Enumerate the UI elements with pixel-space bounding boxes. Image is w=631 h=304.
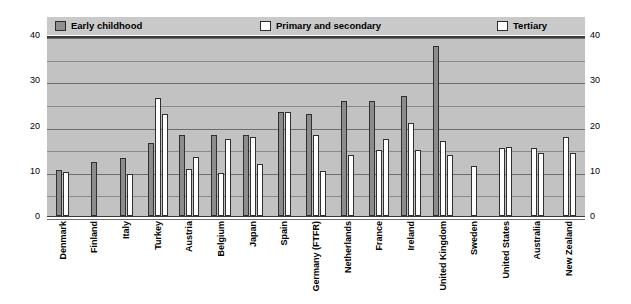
bar-primary[interactable] xyxy=(313,135,319,216)
bar-early[interactable] xyxy=(56,170,62,216)
bar-early[interactable] xyxy=(369,101,375,216)
bar-tertiary[interactable] xyxy=(506,147,512,216)
bar-tertiary[interactable] xyxy=(570,153,576,216)
bar-tertiary[interactable] xyxy=(225,139,231,216)
bar-tertiary[interactable] xyxy=(193,157,199,216)
bar-group xyxy=(174,38,206,216)
x-label-cell: Italy xyxy=(110,219,142,304)
bar-primary[interactable] xyxy=(348,155,354,216)
bar-primary[interactable] xyxy=(218,173,224,216)
bar-early[interactable] xyxy=(341,101,347,216)
bar-primary[interactable] xyxy=(155,98,161,216)
bar-primary[interactable] xyxy=(563,137,569,216)
bar-early[interactable] xyxy=(243,135,249,216)
x-tick-label: Denmark xyxy=(58,221,68,260)
x-label-cell: Finland xyxy=(79,219,111,304)
bar-tertiary[interactable] xyxy=(415,150,421,216)
bar-primary[interactable] xyxy=(408,123,414,216)
bar-group xyxy=(47,38,79,216)
legend-swatch-icon xyxy=(260,21,271,31)
bar-early[interactable] xyxy=(148,143,154,216)
bar-group xyxy=(553,38,585,216)
bar-tertiary[interactable] xyxy=(257,164,263,216)
bar-group xyxy=(142,38,174,216)
legend-item-early[interactable]: Early childhood xyxy=(55,17,142,35)
bar-early[interactable] xyxy=(278,112,284,216)
x-tick-label: Italy xyxy=(121,221,131,239)
x-label-cell: France xyxy=(363,219,395,304)
x-tick-label: Belgium xyxy=(216,221,226,257)
x-tick-label: Spain xyxy=(279,221,289,246)
bar-primary[interactable] xyxy=(285,112,291,216)
x-tick-label: Austria xyxy=(184,221,194,252)
x-label-cell: United States xyxy=(490,219,522,304)
bar-primary[interactable] xyxy=(471,166,477,216)
bar-tertiary[interactable] xyxy=(162,114,168,216)
bar-group xyxy=(110,38,142,216)
x-tick-label: Germany (FTFR) xyxy=(311,221,321,292)
bar-group xyxy=(79,38,111,216)
y-tick-label: 20 xyxy=(590,121,612,131)
legend-label: Early childhood xyxy=(71,21,142,31)
x-label-cell: Japan xyxy=(237,219,269,304)
y-tick-label: 20 xyxy=(18,121,40,131)
bar-groups xyxy=(47,38,585,216)
bar-early[interactable] xyxy=(179,135,185,216)
x-axis-labels: DenmarkFinlandItalyTurkeyAustriaBelgiumJ… xyxy=(47,219,585,304)
x-tick-label: Sweden xyxy=(469,221,479,255)
x-tick-label: Netherlands xyxy=(343,221,353,273)
y-tick-label: 30 xyxy=(590,75,612,85)
bar-tertiary[interactable] xyxy=(320,171,326,216)
x-tick-label: Ireland xyxy=(406,221,416,251)
bar-early[interactable] xyxy=(433,46,439,216)
x-tick-label: United States xyxy=(501,221,511,279)
bar-group xyxy=(427,38,459,216)
legend-item-primary[interactable]: Primary and secondary xyxy=(260,17,381,35)
legend-swatch-icon xyxy=(497,21,508,31)
x-tick-label: Australia xyxy=(532,221,542,260)
bar-tertiary[interactable] xyxy=(538,153,544,216)
x-label-cell: United Kingdom xyxy=(427,219,459,304)
bar-group xyxy=(332,38,364,216)
x-tick-label: United Kingdom xyxy=(438,221,448,291)
chart-container: Early childhoodPrimary and secondaryTert… xyxy=(0,0,631,304)
bar-group xyxy=(205,38,237,216)
bar-tertiary[interactable] xyxy=(383,139,389,216)
bar-primary[interactable] xyxy=(127,174,133,216)
bar-group xyxy=(300,38,332,216)
bar-primary[interactable] xyxy=(186,169,192,217)
bar-early[interactable] xyxy=(120,158,126,216)
x-label-cell: New Zealand xyxy=(553,219,585,304)
bar-early[interactable] xyxy=(401,96,407,216)
bar-early[interactable] xyxy=(211,135,217,216)
bar-primary[interactable] xyxy=(440,141,446,216)
x-label-cell: Denmark xyxy=(47,219,79,304)
x-tick-label: Finland xyxy=(89,221,99,253)
y-tick-label: 40 xyxy=(18,30,40,40)
chart-legend: Early childhoodPrimary and secondaryTert… xyxy=(47,17,585,35)
bar-primary[interactable] xyxy=(250,137,256,216)
bar-group xyxy=(522,38,554,216)
y-tick-label: 30 xyxy=(18,75,40,85)
x-label-cell: Spain xyxy=(268,219,300,304)
y-tick-label: 0 xyxy=(590,211,612,221)
bar-primary[interactable] xyxy=(63,172,69,216)
legend-label: Primary and secondary xyxy=(276,21,381,31)
x-label-cell: Turkey xyxy=(142,219,174,304)
bar-group xyxy=(395,38,427,216)
x-label-cell: Austria xyxy=(174,219,206,304)
bar-primary[interactable] xyxy=(531,148,537,216)
x-tick-label: France xyxy=(374,221,384,251)
bar-early[interactable] xyxy=(91,162,97,216)
bar-early[interactable] xyxy=(306,114,312,216)
legend-item-tertiary[interactable]: Tertiary xyxy=(497,17,547,35)
x-label-cell: Sweden xyxy=(458,219,490,304)
plot-area xyxy=(47,36,585,217)
bar-group xyxy=(268,38,300,216)
bar-group xyxy=(237,38,269,216)
bar-primary[interactable] xyxy=(376,150,382,216)
x-label-cell: Belgium xyxy=(205,219,237,304)
bar-tertiary[interactable] xyxy=(447,155,453,216)
x-tick-label: New Zealand xyxy=(564,221,574,276)
bar-primary[interactable] xyxy=(499,148,505,216)
